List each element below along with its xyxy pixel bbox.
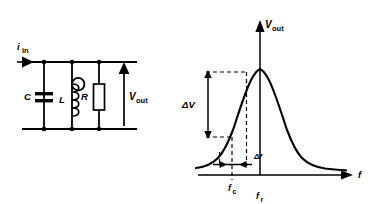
x-axis-label: f: [358, 169, 362, 180]
current-label-sub: in: [22, 46, 29, 55]
circuit-diagram: i in C: [17, 41, 148, 131]
resonance-chart: V out f: [181, 19, 362, 203]
chart-y-axis-label: V out: [265, 19, 284, 33]
capacitor-label: C: [24, 91, 31, 102]
figure-svg: i in C: [0, 0, 377, 204]
junction-dot: [97, 127, 102, 132]
fc-label-sub: c: [233, 188, 237, 195]
current-label: i in: [17, 41, 29, 55]
vout-arrow: [119, 62, 130, 126]
junction-dot: [70, 127, 75, 132]
delta-v-arrow: [204, 70, 212, 139]
chart-x-axis: [198, 170, 353, 179]
resistor-label: R: [81, 91, 88, 102]
fc-label-main: f: [228, 183, 232, 193]
junction-dot: [42, 60, 47, 65]
fr-label-main: f: [256, 191, 260, 201]
vout-label: V out: [129, 91, 148, 105]
junction-dot: [97, 60, 102, 65]
junction-dot: [42, 127, 47, 132]
input-current-arrow: [17, 57, 34, 68]
current-label-main: i: [17, 41, 20, 52]
junction-dot: [70, 60, 75, 65]
fc-tick-label: f c: [228, 183, 237, 195]
y-axis-label-sub: out: [272, 24, 284, 33]
resonance-curve: [196, 69, 346, 170]
vout-label-sub: out: [136, 96, 148, 105]
delta-f-label: Δf: [253, 152, 263, 161]
inductor-label: L: [59, 94, 65, 105]
fr-label-sub: r: [261, 196, 264, 203]
figure-container: i in C: [0, 0, 377, 204]
resistor-symbol: [94, 84, 105, 110]
fr-tick-label: f r: [256, 191, 264, 203]
delta-v-label: ΔV: [181, 99, 195, 110]
